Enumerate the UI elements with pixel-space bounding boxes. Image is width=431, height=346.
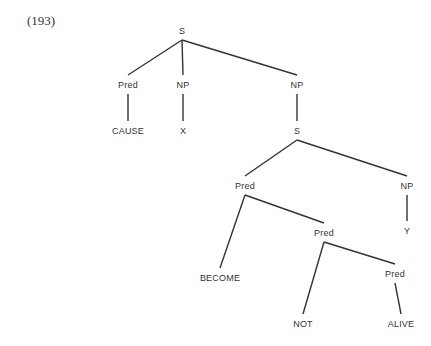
tree-edge bbox=[182, 40, 183, 75]
node-np-s: NP bbox=[291, 80, 304, 90]
node-np-x: NP bbox=[177, 80, 190, 90]
node-s-embedded: S bbox=[294, 126, 300, 136]
node-np-y: NP bbox=[401, 181, 414, 191]
tree-edge bbox=[303, 242, 324, 314]
leaf-cause: CAUSE bbox=[112, 126, 144, 136]
tree-edge bbox=[245, 140, 297, 176]
tree-edge bbox=[395, 283, 401, 314]
tree-edge bbox=[128, 40, 182, 75]
tree-edge bbox=[220, 195, 245, 268]
leaf-alive: ALIVE bbox=[388, 319, 415, 329]
tree-edges bbox=[0, 0, 431, 346]
tree-edge bbox=[182, 40, 297, 75]
node-s-root: S bbox=[179, 26, 185, 36]
leaf-y: Y bbox=[404, 226, 410, 236]
leaf-x: X bbox=[180, 126, 186, 136]
node-pred-become: Pred bbox=[235, 181, 255, 191]
tree-edge bbox=[245, 195, 324, 223]
node-pred-alive: Pred bbox=[385, 269, 405, 279]
node-pred-cause: Pred bbox=[118, 80, 138, 90]
node-pred-not: Pred bbox=[314, 228, 334, 238]
tree-edge bbox=[324, 242, 395, 264]
leaf-become: BECOME bbox=[200, 273, 240, 283]
tree-edge bbox=[297, 140, 407, 176]
leaf-not: NOT bbox=[293, 319, 313, 329]
